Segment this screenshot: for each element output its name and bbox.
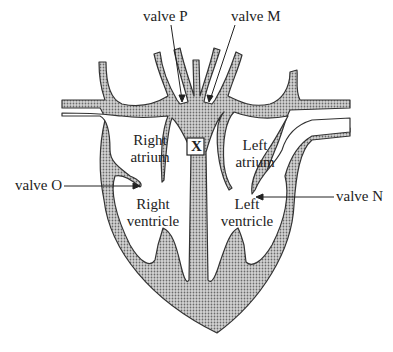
- valve-m-arrowhead: [207, 95, 213, 102]
- valve-m-label: valve M: [231, 8, 281, 25]
- heart-drawing: [0, 0, 393, 352]
- right-ventricle-line1: Right: [118, 196, 188, 213]
- left-atrium-label: Left atrium: [225, 137, 285, 171]
- right-atrium-line2: atrium: [120, 149, 180, 166]
- right-ventricle-label: Right ventricle: [118, 196, 188, 230]
- right-atrium-label: Right atrium: [120, 132, 180, 166]
- right-atrium-line1: Right: [120, 132, 180, 149]
- valve-p-arrowhead: [179, 95, 185, 102]
- left-atrium-line2: atrium: [225, 154, 285, 171]
- left-atrium-line1: Left: [225, 137, 285, 154]
- x-marker-label: X: [191, 138, 202, 155]
- left-ventricle-line2: ventricle: [212, 213, 282, 230]
- left-ventricle-line1: Left: [212, 196, 282, 213]
- valve-n-label: valve N: [336, 188, 383, 205]
- heart-outer-wall: [62, 48, 350, 333]
- valve-p-label: valve P: [143, 8, 188, 25]
- valve-o-label: valve O: [15, 177, 62, 194]
- heart-diagram: valve P valve M valve O valve N X Right …: [0, 0, 393, 352]
- right-ventricle-line2: ventricle: [118, 213, 188, 230]
- left-ventricle-label: Left ventricle: [212, 196, 282, 230]
